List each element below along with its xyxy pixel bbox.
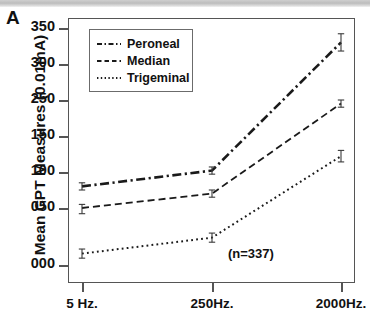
y-tick-mark — [59, 136, 68, 138]
y-tick: 300 — [0, 64, 68, 65]
y-axis-title: Mean CPT Measures (0.01mA) — [31, 11, 49, 279]
y-tick-label: 350 — [31, 18, 55, 34]
error-bar — [79, 249, 85, 258]
error-bar — [338, 150, 344, 162]
sample-size-annotation: (n=337) — [228, 246, 274, 261]
x-tick-mark — [341, 283, 343, 292]
legend-label-trigeminal: Trigeminal — [127, 71, 190, 85]
y-tick-label: 250 — [31, 90, 55, 106]
y-tick-label: 300 — [31, 54, 55, 70]
y-tick-mark — [59, 100, 68, 102]
x-tick-label: 2000Hz. — [316, 296, 366, 311]
y-tick-mark — [59, 172, 68, 174]
error-bar — [338, 100, 344, 107]
x-tick-label: 250Hz. — [191, 296, 234, 311]
scan-edge-artifact — [0, 0, 370, 7]
y-tick: 000 — [0, 265, 68, 266]
panel-label: A — [6, 7, 20, 29]
error-bar — [209, 233, 215, 242]
y-tick: 050 — [0, 208, 68, 209]
legend-sample-median — [97, 56, 121, 66]
y-tick-label: 100 — [31, 162, 55, 178]
x-tick-mark — [82, 283, 84, 292]
legend-sample-trigeminal — [97, 73, 121, 83]
x-tick-label: 5 Hz. — [66, 296, 98, 311]
error-bar — [79, 204, 85, 213]
y-tick: 100 — [0, 172, 68, 173]
y-tick-label: 050 — [31, 198, 55, 214]
y-tick-mark — [59, 265, 68, 267]
y-tick: 250 — [0, 100, 68, 101]
y-tick-mark — [59, 28, 68, 30]
x-tick-mark — [212, 283, 214, 292]
y-tick-mark — [59, 64, 68, 66]
legend: Peroneal Median Trigeminal — [89, 29, 193, 92]
y-tick-label: 150 — [31, 126, 55, 142]
y-tick-mark — [59, 208, 68, 210]
y-tick: 350 — [0, 28, 68, 29]
legend-label-median: Median — [127, 54, 170, 68]
y-tick: 150 — [0, 136, 68, 137]
legend-item: Trigeminal — [97, 69, 186, 86]
y-tick-label: 000 — [31, 255, 55, 271]
legend-label-peroneal: Peroneal — [127, 37, 180, 51]
legend-sample-peroneal — [97, 39, 121, 49]
legend-item: Peroneal — [97, 35, 186, 52]
error-bar — [338, 34, 344, 51]
legend-item: Median — [97, 52, 186, 69]
